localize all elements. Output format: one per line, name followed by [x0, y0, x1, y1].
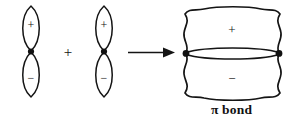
plus-operator: + [64, 44, 72, 60]
p-orbital-left-top-sign: + [28, 18, 35, 32]
orbital-overlap-figure: + − + + − + − π bond [0, 0, 292, 128]
pi-bond-caption: π bond [183, 102, 280, 118]
p-orbital-left-bottom-sign: − [28, 71, 35, 85]
pi-orbital-right-node-dot [276, 50, 283, 57]
pi-orbital-bottom-sign: − [228, 71, 235, 86]
p-orbital-right: + − [96, 6, 113, 97]
pi-orbital-left-node-dot [183, 50, 190, 57]
pi-orbital-top-sign: + [228, 22, 235, 37]
p-orbital-right-bottom-sign: − [101, 71, 108, 85]
p-orbital-left-node-dot [28, 48, 34, 54]
pi-molecular-orbital: + − [183, 7, 283, 101]
p-orbital-right-node-dot [101, 48, 107, 54]
reaction-arrow-icon [128, 48, 175, 58]
p-orbital-left: + − [23, 6, 40, 97]
p-orbital-right-top-sign: + [101, 18, 108, 32]
